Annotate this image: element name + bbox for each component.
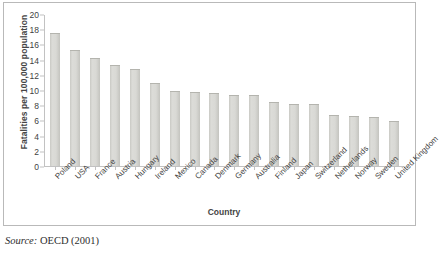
y-tick-mark [40,91,44,92]
bar [170,91,180,166]
y-tick-mark [40,30,44,31]
source-label: Source: [5,235,37,246]
x-axis-title: Country [44,207,404,217]
bar-slot [205,15,225,166]
bar-series [45,15,404,166]
y-tick-mark [40,151,44,152]
bar-slot [364,15,384,166]
y-tick-mark [40,75,44,76]
bar-slot [344,15,364,166]
y-tick-mark [40,15,44,16]
bar [190,92,200,166]
bar-slot [65,15,85,166]
y-tick-mark [40,136,44,137]
bar-slot [105,15,125,166]
bar-slot [384,15,404,166]
y-tick-mark [40,60,44,61]
bar-slot [244,15,264,166]
bar [70,50,80,166]
bar [90,58,100,166]
bar [110,65,120,166]
bar [130,69,140,166]
y-axis-title: Fatalities per 100,000 population [19,7,29,157]
bar-slot [165,15,185,166]
bar-slot [45,15,65,166]
bar-slot [125,15,145,166]
bar-slot [85,15,105,166]
y-tick-mark [40,121,44,122]
bar [50,33,60,166]
bar-slot [145,15,165,166]
y-tick-mark [40,167,44,168]
bar-slot [264,15,284,166]
source-note: Source: OECD (2001) [5,235,99,246]
chart-figure: Fatalities per 100,000 population 201816… [3,2,416,226]
bar [309,104,319,166]
source-text: OECD (2001) [40,235,99,246]
bar-slot [185,15,205,166]
y-tick-mark [40,106,44,107]
bar-slot [284,15,304,166]
plot-area: 20181614121086420 [44,15,404,167]
bar-slot [324,15,344,166]
y-tick-mark [40,45,44,46]
bar-slot [304,15,324,166]
bar-slot [224,15,244,166]
